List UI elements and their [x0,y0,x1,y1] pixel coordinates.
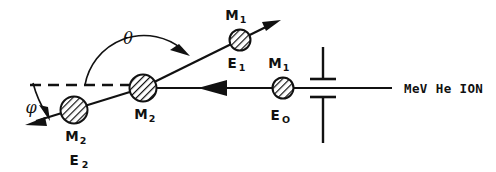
beam-caption-label: MeV He ION [404,81,483,96]
recoil-mass-subscript: 2 [80,135,87,146]
scattered-trajectory-line [140,24,272,89]
scattered-mass-subscript: 1 [240,14,247,25]
incident-beam-arrowhead [198,80,227,96]
recoil-trajectory-arrowhead [25,117,47,126]
recoil-mass-label: M [65,128,78,144]
collimator-lower-jaw [310,97,336,143]
recoil-energy-label: E [69,152,78,168]
scattered-energy-label: E [227,55,236,71]
collimator-upper-jaw [310,47,336,79]
theta-arc-arrowhead [170,44,190,56]
incident-mass-subscript: 1 [283,62,290,73]
incident-particle-m1 [273,78,294,99]
recoil-particle-m2 [61,97,88,124]
scattered-trajectory-arrowhead [262,20,281,31]
scattered-energy-subscript: 1 [239,62,246,73]
phi-angle-label: φ [25,98,37,117]
theta-angle-label: θ [123,29,133,48]
scattered-particle-m1 [230,30,251,51]
target-nucleus-m2 [130,75,157,102]
recoil-energy-subscript: 2 [82,159,89,170]
incident-energy-label: E [270,107,279,123]
incident-energy-subscript: O [282,114,290,125]
diagram-canvas: M 1 E 1 M 1 E O M 2 M 2 E 2 θ φ MeV He I… [0,0,496,172]
scattered-mass-label: M [225,7,238,23]
target-mass-label: M [134,106,147,122]
incident-mass-label: M [268,55,281,71]
target-mass-subscript: 2 [149,113,156,124]
rbs-kinematics-figure: M 1 E 1 M 1 E O M 2 M 2 E 2 θ φ MeV He I… [0,0,496,172]
